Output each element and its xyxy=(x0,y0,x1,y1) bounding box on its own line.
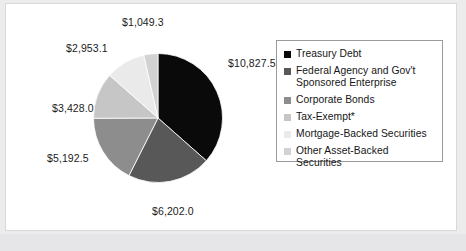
legend-swatch-icon xyxy=(284,68,291,75)
legend-item[interactable]: Mortgage-Backed Securities xyxy=(284,128,436,140)
pie-data-label-treasury-debt: $10,827.5 xyxy=(228,57,276,69)
pie-data-label-tax-exempt: $3,428.0 xyxy=(52,102,94,114)
legend-item-label: Mortgage-Backed Securities xyxy=(296,128,427,140)
pie-data-label-mortgage-backed: $2,953.1 xyxy=(66,42,108,54)
pie-chart-svg xyxy=(93,53,223,183)
chart-panel: $10,827.5 $6,202.0 $5,192.5 $3,428.0 $2,… xyxy=(5,3,457,231)
legend-item-label: Treasury Debt xyxy=(296,48,362,60)
chart-legend: Treasury DebtFederal Agency and Gov't Sp… xyxy=(276,40,443,162)
chart-screenshot: $10,827.5 $6,202.0 $5,192.5 $3,428.0 $2,… xyxy=(0,0,466,251)
legend-item[interactable]: Tax-Exempt* xyxy=(284,111,436,123)
pie-data-label-corporate-bonds: $5,192.5 xyxy=(47,152,89,164)
legend-swatch-icon xyxy=(284,51,291,58)
pie-data-label-other-asset-backed: $1,049.3 xyxy=(122,16,164,28)
legend-item[interactable]: Treasury Debt xyxy=(284,48,436,60)
legend-item[interactable]: Other Asset-Backed Securities xyxy=(284,145,436,170)
legend-swatch-icon xyxy=(284,148,291,155)
page-bottom-margin xyxy=(0,234,466,251)
pie-chart xyxy=(93,53,223,183)
legend-item-label: Corporate Bonds xyxy=(296,94,375,106)
legend-item[interactable]: Federal Agency and Gov't Sponsored Enter… xyxy=(284,65,436,90)
legend-swatch-icon xyxy=(284,114,291,121)
pie-data-label-federal-agency: $6,202.0 xyxy=(152,205,194,217)
legend-item-label: Other Asset-Backed Securities xyxy=(296,145,436,170)
legend-swatch-icon xyxy=(284,131,291,138)
legend-swatch-icon xyxy=(284,97,291,104)
legend-item-label: Tax-Exempt* xyxy=(296,111,355,123)
pie-slice-group xyxy=(93,54,222,183)
legend-item[interactable]: Corporate Bonds xyxy=(284,94,436,106)
legend-item-label: Federal Agency and Gov't Sponsored Enter… xyxy=(296,65,436,90)
page-right-margin xyxy=(457,0,466,234)
